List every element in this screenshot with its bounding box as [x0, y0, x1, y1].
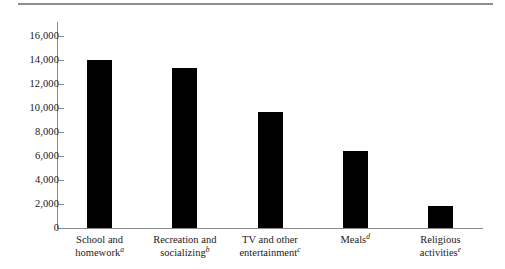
footnote-marker: a	[120, 245, 124, 254]
x-axis-label-line: Mealsd	[313, 233, 398, 246]
y-axis-tick-mark	[59, 84, 64, 85]
y-axis-tick-mark	[59, 108, 64, 109]
x-axis-label-line: homeworka	[57, 246, 142, 259]
x-axis-label: School andhomeworka	[57, 233, 142, 259]
footnote-marker: d	[366, 232, 370, 241]
x-axis-label-line: entertainmentc	[227, 246, 312, 259]
bar	[87, 60, 112, 228]
footnote-marker: b	[206, 245, 210, 254]
y-axis-tick-mark	[59, 132, 64, 133]
x-axis-label: Mealsd	[313, 233, 398, 246]
y-axis-tick-mark	[59, 60, 64, 61]
y-axis-tick-mark	[59, 156, 64, 157]
y-axis-tick-mark	[59, 228, 64, 229]
footnote-marker: e	[458, 245, 461, 254]
x-axis-label: Recreation andsocializingb	[142, 233, 227, 259]
bar	[258, 112, 283, 228]
x-axis-line	[57, 228, 483, 229]
y-axis-tick-mark	[59, 204, 64, 205]
x-axis-label-line: activitiese	[398, 246, 483, 259]
x-axis-label-line: School and	[57, 233, 142, 246]
bar	[428, 206, 453, 228]
x-axis-label: TV and otherentertainmentc	[227, 233, 312, 259]
x-axis-label-line: socializingb	[142, 246, 227, 259]
bar	[172, 68, 197, 228]
x-axis-label-line: Recreation and	[142, 233, 227, 246]
y-axis-tick-mark	[59, 36, 64, 37]
x-axis-label-line: Religious	[398, 233, 483, 246]
y-axis-tick-mark	[59, 180, 64, 181]
bar-chart: 02,0004,0006,0008,00010,00012,00014,0001…	[0, 0, 505, 269]
footnote-marker: c	[297, 245, 300, 254]
x-axis-label: Religiousactivitiese	[398, 233, 483, 259]
bar	[343, 151, 368, 228]
